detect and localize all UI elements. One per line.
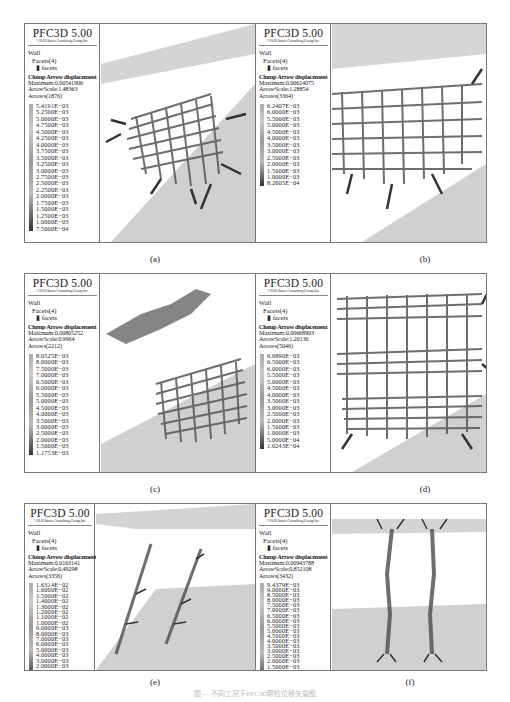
panel-label-e: (e) xyxy=(140,677,170,687)
panel-d: PFC3D 5.00 ©2016 Itasca Consulting Group… xyxy=(255,273,487,473)
facets-label: ▮ facets xyxy=(259,544,328,552)
arrows-count: Arrows(3356) xyxy=(28,573,92,579)
figure-caption: 图 — 不同工况下PFC3D颗粒位移矢量图 xyxy=(0,688,510,698)
arrows-count: Arrows(1876) xyxy=(28,93,97,99)
copyright-text: ©2016 Itasca Consulting Group,Inc. xyxy=(259,519,328,526)
software-title: PFC3D 5.00 xyxy=(259,277,328,289)
software-title: PFC3D 5.00 xyxy=(259,27,328,39)
facets-label: ▮ facets xyxy=(28,314,97,322)
model-view-c xyxy=(101,274,255,472)
model-view-b xyxy=(332,24,486,242)
wall-label: Wall xyxy=(259,529,328,537)
facets-group-label: Facets(4) xyxy=(28,537,92,545)
facets-group-label: Facets(4) xyxy=(259,537,328,545)
panel-label-f: (f) xyxy=(395,677,425,687)
copyright-text: ©2016 Itasca Consulting Group,Inc. xyxy=(28,519,92,526)
facets-group-label: Facets(4) xyxy=(28,307,97,315)
copyright-text: ©2016 Itasca Consulting Group,Inc. xyxy=(259,39,328,46)
facets-label: ▮ facets xyxy=(28,64,97,72)
color-scale: 1.6314E−02 1.6000E−02 1.5000E−02 1.4000E… xyxy=(28,582,92,671)
wall-label: Wall xyxy=(259,299,328,307)
scale-tick: 1.0000E−03 xyxy=(267,669,328,671)
arrows-count: Arrows(2212) xyxy=(28,343,97,349)
arrows-count: Arrows(5046) xyxy=(259,343,328,349)
panel-a: PFC3D 5.00 ©2016 Itasca Consulting Group… xyxy=(24,23,256,243)
panel-c: PFC3D 5.00 ©2016 Itasca Consulting Group… xyxy=(24,273,256,473)
scale-tick: 1.0000E−03 xyxy=(36,669,92,672)
copyright-text: ©2016 Itasca Consulting Group,Inc. xyxy=(28,39,97,46)
panel-label-c: (c) xyxy=(140,484,170,494)
color-scale-bar xyxy=(260,354,264,449)
model-view-f xyxy=(332,504,486,670)
color-scale: 6.6890E−03 6.5000E−03 6.0000E−03 5.5000E… xyxy=(259,353,328,450)
color-scale-bar xyxy=(260,104,264,186)
facets-label: ▮ facets xyxy=(259,314,328,322)
scale-tick: 1.1753E−03 xyxy=(36,450,97,456)
facets-group-label: Facets(4) xyxy=(28,57,97,65)
panel-label-d: (d) xyxy=(410,484,440,494)
wall-label: Wall xyxy=(28,299,97,307)
arrows-count: Arrows(3432) xyxy=(259,573,328,579)
legend-e: PFC3D 5.00 ©2016 Itasca Consulting Group… xyxy=(25,504,95,670)
scale-tick: 8.2605E−04 xyxy=(267,180,328,186)
color-scale: 5.4191E−03 5.2500E−03 5.0000E−03 4.7500E… xyxy=(28,103,97,232)
legend-a: PFC3D 5.00 ©2016 Itasca Consulting Group… xyxy=(25,24,100,242)
color-scale: 9.4379E−03 9.0000E−03 8.5000E−03 8.0000E… xyxy=(259,582,328,671)
arrows-count: Arrows(3364) xyxy=(259,93,328,99)
software-title: PFC3D 5.00 xyxy=(259,507,328,519)
legend-f: PFC3D 5.00 ©2016 Itasca Consulting Group… xyxy=(256,504,331,670)
color-scale-bar xyxy=(29,354,33,455)
panel-f: PFC3D 5.00 ©2016 Itasca Consulting Group… xyxy=(255,503,487,671)
panel-b: PFC3D 5.00 ©2016 Itasca Consulting Group… xyxy=(255,23,487,243)
software-title: PFC3D 5.00 xyxy=(28,277,97,289)
model-view-a xyxy=(101,24,255,242)
facets-group-label: Facets(4) xyxy=(259,57,328,65)
copyright-text: ©2016 Itasca Consulting Group,Inc. xyxy=(259,289,328,296)
color-scale-bar xyxy=(260,583,264,671)
facets-group-label: Facets(4) xyxy=(259,307,328,315)
panel-e: PFC3D 5.00 ©2016 Itasca Consulting Group… xyxy=(24,503,256,671)
panel-label-b: (b) xyxy=(410,254,440,264)
scale-tick: 1.0243E−04 xyxy=(267,443,328,449)
panel-label-a: (a) xyxy=(140,254,170,264)
color-scale-bar xyxy=(29,104,33,231)
facets-label: ▮ facets xyxy=(259,64,328,72)
model-view-e xyxy=(96,504,255,670)
color-scale-bar xyxy=(29,583,33,671)
wall-label: Wall xyxy=(28,49,97,57)
facets-label: ▮ facets xyxy=(28,544,92,552)
copyright-text: ©2016 Itasca Consulting Group,Inc. xyxy=(28,289,97,296)
color-scale: 6.2407E−03 6.0000E−03 5.5000E−03 5.0000E… xyxy=(259,103,328,187)
software-title: PFC3D 5.00 xyxy=(28,507,92,519)
legend-c: PFC3D 5.00 ©2016 Itasca Consulting Group… xyxy=(25,274,100,472)
software-title: PFC3D 5.00 xyxy=(28,27,97,39)
model-view-d xyxy=(332,274,486,472)
wall-label: Wall xyxy=(259,49,328,57)
wall-label: Wall xyxy=(28,529,92,537)
legend-d: PFC3D 5.00 ©2016 Itasca Consulting Group… xyxy=(256,274,331,472)
color-scale: 8.0525E−03 8.0000E−03 7.5000E−03 7.0000E… xyxy=(28,353,97,456)
scale-tick: 7.5000E−04 xyxy=(36,226,97,232)
legend-b: PFC3D 5.00 ©2016 Itasca Consulting Group… xyxy=(256,24,331,242)
